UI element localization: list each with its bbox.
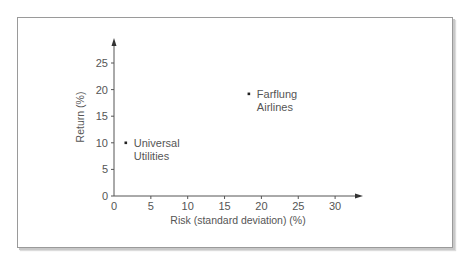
x-tick-label: 30 xyxy=(329,200,341,212)
x-tick-label: 0 xyxy=(111,200,117,212)
point-label-line1: Universal xyxy=(134,137,180,149)
x-tick-label: 20 xyxy=(255,200,267,212)
data-point: FarflungAirlines xyxy=(248,88,298,113)
x-tick-label: 5 xyxy=(148,200,154,212)
x-axis-arrow-icon xyxy=(355,194,363,199)
point-marker-icon xyxy=(124,142,127,145)
axes xyxy=(112,38,364,199)
y-axis-arrow-icon xyxy=(112,38,117,46)
y-tick-label: 20 xyxy=(96,84,108,96)
data-point: UniversalUtilities xyxy=(124,137,179,162)
y-tick-label: 5 xyxy=(102,163,108,175)
point-marker-icon xyxy=(248,93,251,96)
y-tick-label: 0 xyxy=(102,190,108,202)
point-label-line2: Airlines xyxy=(257,101,294,113)
y-tick-label: 10 xyxy=(96,137,108,149)
y-tick-label: 15 xyxy=(96,110,108,122)
point-label-line2: Utilities xyxy=(134,150,170,162)
y-tick-label: 25 xyxy=(96,57,108,69)
x-tick-label: 10 xyxy=(182,200,194,212)
point-label-line1: Farflung xyxy=(257,88,297,100)
x-tick-label: 25 xyxy=(292,200,304,212)
x-tick-label: 15 xyxy=(218,200,230,212)
scatter-chart: 051015202530 0510152025 Risk (standard d… xyxy=(0,0,471,264)
x-ticks: 051015202530 xyxy=(111,196,341,212)
y-ticks: 0510152025 xyxy=(96,57,114,202)
x-axis-label: Risk (standard deviation) (%) xyxy=(170,214,305,226)
data-points: UniversalUtilitiesFarflungAirlines xyxy=(124,88,297,162)
y-axis-label: Return (%) xyxy=(74,92,86,143)
